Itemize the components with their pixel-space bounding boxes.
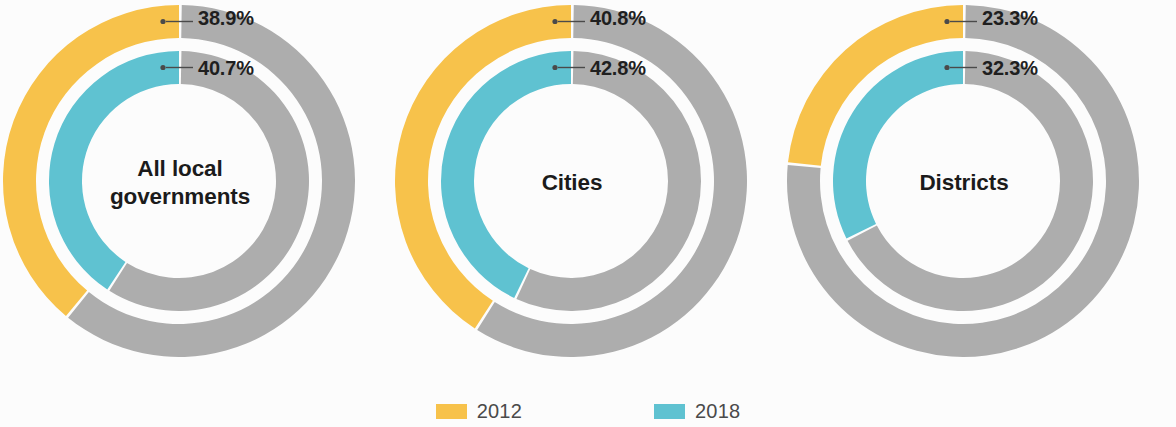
leader-dot-2012-0 (160, 19, 165, 24)
legend-swatch-2012 (436, 404, 467, 419)
donut-center-label-0: All local governments (55, 120, 305, 245)
donut-value-label-2018-2: 32.3% (982, 57, 1038, 80)
legend-label-2012: 2012 (477, 400, 522, 423)
leader-dot-2012-2 (944, 19, 949, 24)
donut-panel-all-local-governments: All local governments 38.9% 40.7% (0, 0, 392, 380)
donut-chart-figure: All local governments 38.9% 40.7% Cities… (0, 0, 1176, 427)
legend-label-2018: 2018 (695, 400, 740, 423)
leader-dot-2018-1 (552, 65, 557, 70)
donut-value-label-2018-0: 40.7% (198, 57, 254, 80)
donut-value-label-2012-1: 40.8% (590, 7, 646, 30)
legend-swatch-2018 (654, 404, 685, 419)
chart-legend: 2012 2018 (0, 396, 1176, 427)
leader-dot-2018-2 (944, 65, 949, 70)
donut-panel-districts: Districts 23.3% 32.3% (784, 0, 1176, 380)
leader-dot-2018-0 (160, 65, 165, 70)
donut-value-label-2012-2: 23.3% (982, 7, 1038, 30)
donut-value-label-2012-0: 38.9% (198, 7, 254, 30)
donut-center-label-1: Cities (447, 120, 697, 245)
donut-center-label-2: Districts (839, 120, 1089, 245)
donut-value-label-2018-1: 42.8% (590, 57, 646, 80)
legend-item-2012: 2012 (436, 400, 522, 423)
donut-panel-cities: Cities 40.8% 42.8% (392, 0, 784, 380)
leader-dot-2012-1 (552, 19, 557, 24)
legend-item-2018: 2018 (654, 400, 740, 423)
